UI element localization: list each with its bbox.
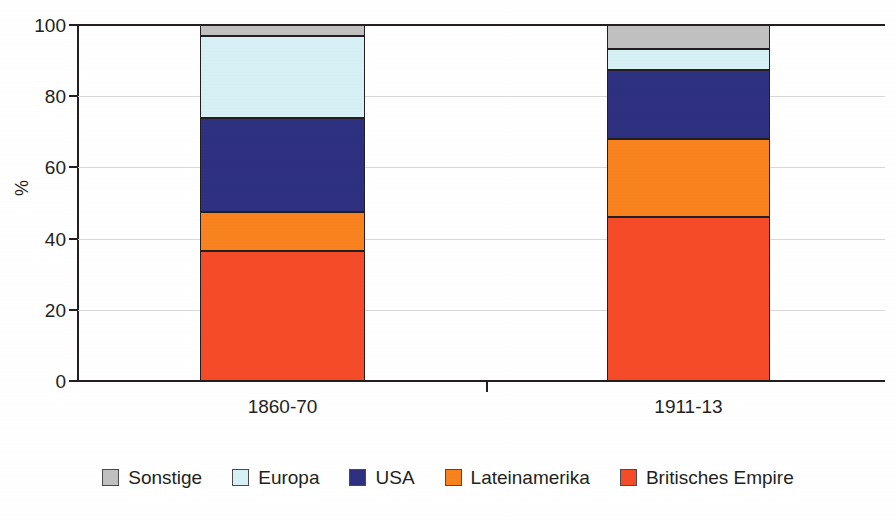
y-tick-mark-100 <box>69 24 78 26</box>
bar-segment-usa <box>607 70 770 139</box>
x-axis-label-1860-70: 1860-70 <box>203 396 363 418</box>
y-tick-label-40: 40 <box>0 230 66 249</box>
legend-label: Sonstige <box>128 468 202 487</box>
bar-segment-europa <box>200 36 365 117</box>
y-tick-mark-80 <box>69 95 78 97</box>
legend-item-usa[interactable]: USA <box>349 468 414 487</box>
legend-label: Europa <box>258 468 319 487</box>
legend-item-sonstige[interactable]: Sonstige <box>102 468 202 487</box>
y-axis-label: % <box>12 180 33 196</box>
legend-label: USA <box>375 468 414 487</box>
y-tick-mark-0 <box>69 380 78 382</box>
legend-swatch-icon <box>349 469 366 486</box>
legend-swatch-icon <box>232 469 249 486</box>
y-tick-label-80: 80 <box>0 87 66 106</box>
y-tick-mark-40 <box>69 238 78 240</box>
legend-item-lateinamerika[interactable]: Lateinamerika <box>445 468 590 487</box>
y-tick-label-100: 100 <box>0 16 66 35</box>
x-axis-tick-mark <box>486 381 488 392</box>
bar-segment-usa <box>200 118 365 213</box>
y-tick-label-0: 0 <box>0 372 66 391</box>
legend-swatch-icon <box>102 469 119 486</box>
chart-legend: SonstigeEuropaUSALateinamerikaBritisches… <box>0 468 896 487</box>
bar-segment-sonstige <box>200 25 365 36</box>
x-axis-label-1911-13: 1911-13 <box>609 396 769 418</box>
bar-segment-lateinamerika <box>607 139 770 217</box>
bar-segment-sonstige <box>607 25 770 49</box>
legend-item-britisches-empire[interactable]: Britisches Empire <box>620 468 794 487</box>
bar-segment-britisches-empire <box>607 217 770 381</box>
bar-1911-13 <box>607 25 770 381</box>
y-tick-label-20: 20 <box>0 301 66 320</box>
legend-item-europa[interactable]: Europa <box>232 468 319 487</box>
legend-swatch-icon <box>445 469 462 486</box>
y-tick-mark-60 <box>69 166 78 168</box>
bar-segment-britisches-empire <box>200 251 365 381</box>
bar-1860-70 <box>200 25 365 381</box>
legend-label: Lateinamerika <box>471 468 590 487</box>
stacked-bar-chart: % 020406080100 1860-701911-13 SonstigeEu… <box>0 0 896 520</box>
plot-area <box>78 25 885 381</box>
bar-segment-europa <box>607 49 770 70</box>
y-tick-mark-20 <box>69 309 78 311</box>
legend-label: Britisches Empire <box>646 468 794 487</box>
bar-segment-lateinamerika <box>200 212 365 251</box>
y-tick-label-60: 60 <box>0 158 66 177</box>
legend-swatch-icon <box>620 469 637 486</box>
